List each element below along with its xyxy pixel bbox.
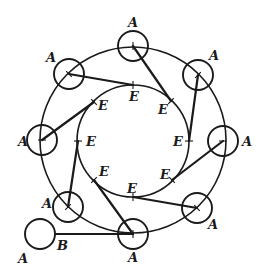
- node-label: A: [126, 250, 138, 265]
- inner-point-label: E: [97, 98, 109, 113]
- inner-point-ticks: [38, 42, 227, 238]
- point-labels: AAAAAAAAEEEEEEEE: [16, 15, 252, 265]
- connection-line: [69, 74, 133, 85]
- node-label: A: [126, 15, 138, 30]
- detached-node-group: AB: [16, 219, 133, 266]
- connection-line: [189, 75, 198, 141]
- node-label: A: [16, 134, 28, 149]
- outer-nodes: [27, 31, 238, 249]
- inner-point-label: E: [126, 181, 138, 196]
- inner-point-label: E: [85, 134, 97, 149]
- node-label: A: [240, 134, 252, 149]
- detached-node-label: A: [16, 251, 28, 266]
- inner-point-label: E: [157, 102, 169, 117]
- node-label: A: [40, 196, 52, 211]
- inner-point-label: E: [159, 167, 171, 182]
- node-label: A: [206, 217, 218, 232]
- inner-point-label: E: [128, 89, 140, 104]
- detached-node-circle: [25, 219, 55, 249]
- connection-line: [133, 197, 197, 208]
- inner-point-label: E: [98, 164, 110, 179]
- point-b-label: B: [56, 238, 68, 253]
- connection-line: [68, 141, 78, 207]
- node-label: A: [207, 48, 219, 63]
- node-label: A: [44, 50, 56, 65]
- inner-point-label: E: [172, 134, 184, 149]
- concentric-circles-diagram: AAAAAAAAEEEEEEEE AB: [0, 0, 266, 280]
